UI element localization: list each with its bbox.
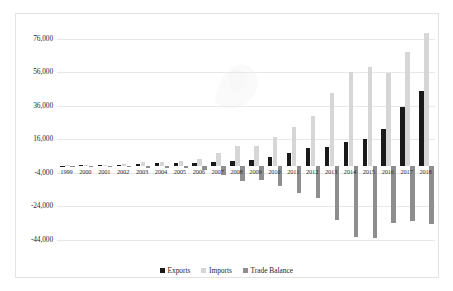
bar-group[interactable] (341, 22, 360, 250)
chart-container: 76,00056,00036,00016,000-4,000-24,000-44… (0, 0, 453, 291)
bar-imports[interactable] (311, 116, 315, 166)
legend-item[interactable]: Imports (201, 266, 232, 275)
x-axis-tick-label: 2000 (76, 169, 95, 175)
bar-imports[interactable] (386, 73, 390, 166)
bar-exports[interactable] (60, 166, 64, 167)
bar-group[interactable] (397, 22, 416, 250)
legend-label: Trade Balance (250, 266, 293, 275)
legend-item[interactable]: Trade Balance (243, 266, 293, 275)
bar-exports[interactable] (136, 164, 140, 166)
bar-group[interactable] (322, 22, 341, 250)
x-axis-tick-label: 2007 (208, 169, 227, 175)
legend-item[interactable]: Exports (160, 266, 191, 275)
bar-imports[interactable] (292, 127, 296, 167)
bar-group[interactable] (265, 22, 284, 250)
bar-group[interactable] (359, 22, 378, 250)
bar-balance[interactable] (70, 166, 74, 167)
y-axis-tick-label: 16,000 (33, 135, 53, 142)
legend-label: Imports (209, 266, 232, 275)
legend-swatch-balance (243, 268, 248, 273)
y-axis-tick-label: 76,000 (33, 35, 53, 42)
bar-exports[interactable] (174, 163, 178, 166)
bar-balance[interactable] (108, 166, 112, 167)
bar-imports[interactable] (424, 33, 428, 166)
bar-imports[interactable] (235, 146, 239, 166)
bar-imports[interactable] (197, 159, 201, 166)
x-axis-tick-label: 2015 (359, 169, 378, 175)
bar-group[interactable] (170, 22, 189, 250)
y-axis-tick-label: 56,000 (33, 68, 53, 75)
bar-group[interactable] (303, 22, 322, 250)
x-axis-tick-label: 2004 (152, 169, 171, 175)
legend-swatch-imports (201, 268, 206, 273)
bar-exports[interactable] (155, 163, 159, 166)
bar-balance[interactable] (354, 166, 358, 237)
bar-exports[interactable] (249, 160, 253, 166)
bar-group[interactable] (114, 22, 133, 250)
bar-exports[interactable] (344, 142, 348, 166)
bar-imports[interactable] (65, 165, 69, 166)
y-axis-tick-labels: 76,00056,00036,00016,000-4,000-24,000-44… (15, 22, 53, 250)
bar-imports[interactable] (273, 137, 277, 166)
bar-imports[interactable] (349, 72, 353, 167)
bar-imports[interactable] (103, 165, 107, 166)
bar-exports[interactable] (192, 163, 196, 166)
x-axis-tick-label: 2006 (189, 169, 208, 175)
bar-exports[interactable] (268, 157, 272, 166)
bar-imports[interactable] (405, 52, 409, 166)
x-axis-tick-label: 2002 (114, 169, 133, 175)
bar-group[interactable] (416, 22, 435, 250)
x-axis-tick-label: 2011 (284, 169, 303, 175)
bar-group[interactable] (133, 22, 152, 250)
bar-exports[interactable] (79, 165, 83, 166)
bar-group[interactable] (227, 22, 246, 250)
bar-exports[interactable] (98, 165, 102, 166)
legend-label: Exports (167, 266, 190, 275)
bar-group[interactable] (95, 22, 114, 250)
bar-group[interactable] (208, 22, 227, 250)
bar-imports[interactable] (179, 161, 183, 166)
bar-group[interactable] (57, 22, 76, 250)
legend-swatch-exports (160, 268, 165, 273)
bar-group[interactable] (152, 22, 171, 250)
bar-imports[interactable] (254, 146, 258, 167)
bar-group[interactable] (284, 22, 303, 250)
x-axis-tick-label: 2010 (265, 169, 284, 175)
x-axis-tick-label: 2003 (133, 169, 152, 175)
bar-imports[interactable] (141, 162, 145, 166)
x-axis-tick-label: 2018 (416, 169, 435, 175)
bar-imports[interactable] (160, 162, 164, 167)
bar-group[interactable] (76, 22, 95, 250)
bar-imports[interactable] (216, 153, 220, 166)
bar-group[interactable] (246, 22, 265, 250)
y-axis-tick-label: 36,000 (33, 102, 53, 109)
x-axis-tick-label: 2009 (246, 169, 265, 175)
bar-exports[interactable] (325, 147, 329, 166)
bar-exports[interactable] (306, 148, 310, 166)
bar-exports[interactable] (363, 139, 367, 167)
x-axis-tick-label: 2013 (322, 169, 341, 175)
y-axis-tick-label: -4,000 (35, 169, 54, 176)
bar-exports[interactable] (381, 129, 385, 166)
bar-exports[interactable] (117, 165, 121, 167)
bar-balance[interactable] (373, 166, 377, 238)
bar-group[interactable] (378, 22, 397, 250)
bar-imports[interactable] (368, 67, 372, 166)
bar-exports[interactable] (419, 91, 423, 166)
x-axis-tick-label: 2012 (303, 169, 322, 175)
bar-balance[interactable] (127, 166, 131, 167)
x-axis-tick-label: 2016 (378, 169, 397, 175)
bar-imports[interactable] (122, 164, 126, 166)
bar-exports[interactable] (211, 162, 215, 166)
y-axis-tick-label: -44,000 (31, 236, 53, 243)
bar-exports[interactable] (287, 153, 291, 166)
x-axis-tick-label: 2005 (170, 169, 189, 175)
bar-imports[interactable] (84, 165, 88, 167)
bar-exports[interactable] (400, 107, 404, 167)
x-axis-tick-label: 2008 (227, 169, 246, 175)
bar-imports[interactable] (330, 93, 334, 166)
bar-exports[interactable] (230, 161, 234, 166)
bar-balance[interactable] (89, 166, 93, 167)
plot-area: 1999200020012002200320042005200620072008… (57, 22, 435, 250)
bar-group[interactable] (189, 22, 208, 250)
